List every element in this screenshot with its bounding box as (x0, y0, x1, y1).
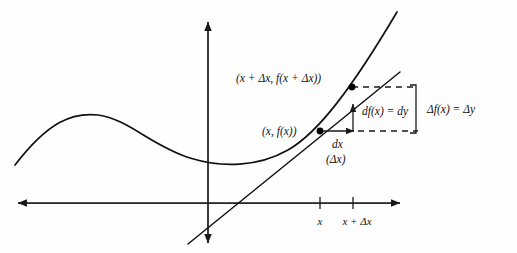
label-lower-point: (x, f(x)) (262, 125, 297, 138)
label-dx: dx (332, 138, 344, 150)
label-group: (x + Δx, f(x + Δx)) (x, f(x)) dx (Δx) df… (236, 72, 476, 227)
label-upper-point: (x + Δx, f(x + Δx)) (236, 72, 321, 85)
tick-label-x-plus-delta-x: x + Δx (341, 215, 371, 227)
axes-group (18, 22, 400, 243)
tick-label-x: x (317, 215, 323, 227)
figure-canvas: (x + Δx, f(x + Δx)) (x, f(x)) dx (Δx) df… (0, 0, 517, 253)
label-delta-y: Δf(x) = Δy (426, 103, 476, 116)
point-lower (317, 128, 324, 135)
point-upper (349, 84, 356, 91)
label-dy: df(x) = dy (362, 105, 409, 118)
label-delta-x-paren: (Δx) (326, 153, 346, 166)
points-group (317, 84, 356, 135)
delta-y-bracket (410, 85, 416, 133)
differential-diagram: (x + Δx, f(x + Δx)) (x, f(x)) dx (Δx) df… (0, 0, 517, 253)
